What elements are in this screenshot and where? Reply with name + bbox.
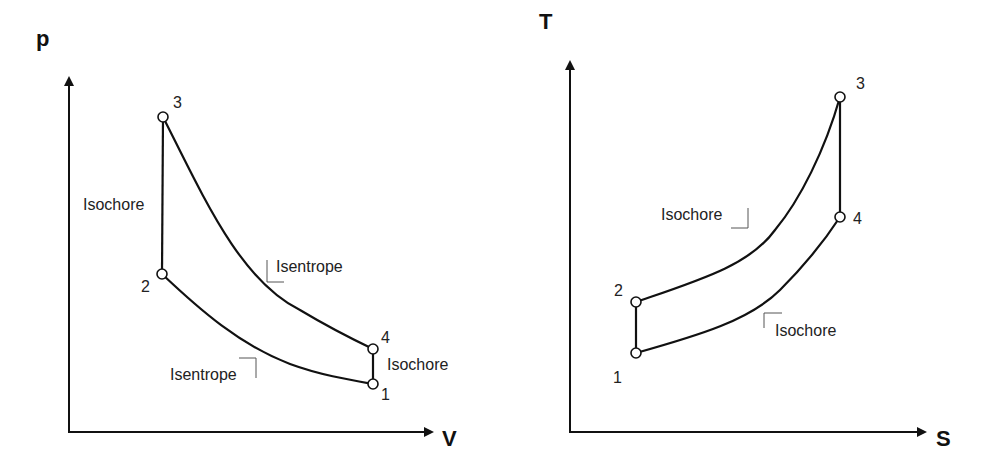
ts-point-2-label: 2 — [614, 282, 623, 299]
ts-point-4-label: 4 — [853, 210, 862, 227]
ts-isochore-upper-label: Isochore — [661, 206, 722, 223]
ts-point-1 — [631, 348, 641, 358]
ts-point-4 — [835, 212, 845, 222]
pv-process-2-3-isochore — [162, 117, 163, 274]
otto-cycle-diagrams: p V 1 2 3 4 Isochore Isentrope Isentrope… — [0, 0, 991, 468]
ts-point-2 — [631, 297, 641, 307]
pv-point-2 — [157, 269, 167, 279]
pv-point-3-label: 3 — [173, 94, 182, 111]
pv-y-axis-label: p — [36, 26, 49, 51]
pv-point-4-label: 4 — [381, 329, 390, 346]
pv-point-3 — [158, 112, 168, 122]
pv-isochore-right-label: Isochore — [387, 356, 448, 373]
pv-isentrope-lower-label: Isentrope — [170, 366, 237, 383]
pv-x-axis-label: V — [442, 426, 457, 451]
pv-isochore-left-label: Isochore — [83, 196, 144, 213]
ts-diagram: T S 1 2 3 4 Isochore Isochore — [539, 9, 951, 451]
ts-point-3-label: 3 — [856, 75, 865, 92]
pv-point-4 — [368, 344, 378, 354]
pv-point-2-label: 2 — [141, 278, 150, 295]
pv-diagram: p V 1 2 3 4 Isochore Isentrope Isentrope… — [36, 26, 457, 451]
ts-isochore-upper-bracket — [731, 208, 748, 228]
ts-process-2-3-isochore — [636, 97, 840, 302]
pv-point-1-label: 1 — [381, 386, 390, 403]
pv-process-3-4-isentrope — [163, 117, 373, 349]
ts-isochore-lower-label: Isochore — [775, 322, 836, 339]
pv-isentrope-upper-label: Isentrope — [276, 258, 343, 275]
pv-isentrope-lower-bracket — [239, 358, 256, 378]
ts-y-axis-label: T — [539, 9, 553, 34]
ts-point-3 — [835, 92, 845, 102]
ts-point-1-label: 1 — [613, 369, 622, 386]
pv-point-1 — [368, 379, 378, 389]
ts-x-axis-label: S — [936, 426, 951, 451]
